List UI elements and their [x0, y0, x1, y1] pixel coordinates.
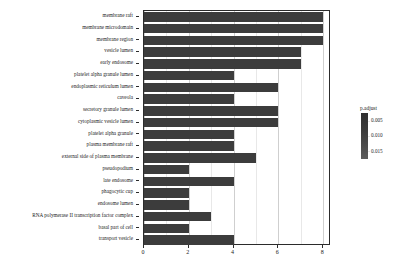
y-axis-tick: [136, 145, 139, 146]
y-axis-tick: [136, 180, 139, 181]
y-axis-tick: [136, 227, 139, 228]
bar-row: [144, 82, 331, 94]
bar-row: [144, 152, 331, 164]
y-axis-tick-label: secretory granule lumen: [83, 104, 133, 116]
go-enrichment-bar-chart: membrane raftmembrane microdomainmembran…: [0, 0, 404, 273]
x-axis: 02468: [143, 245, 330, 263]
bar: [144, 177, 234, 186]
bar: [144, 165, 189, 174]
legend-title: p.adjust: [360, 105, 377, 111]
bar: [144, 94, 234, 103]
y-axis-tick: [136, 39, 139, 40]
bar-row: [144, 140, 331, 152]
bar-row: [144, 164, 331, 176]
x-axis-tick-label: 6: [276, 249, 279, 255]
y-axis-tick: [136, 157, 139, 158]
bar: [144, 24, 323, 33]
bar: [144, 71, 234, 80]
y-axis-tick-label: platelet alpha granule: [88, 128, 133, 140]
bar-row: [144, 35, 331, 47]
legend-tick: [368, 136, 370, 137]
y-axis-tick: [136, 51, 139, 52]
bar: [144, 200, 189, 209]
legend-colorbar: [361, 113, 368, 159]
bar-row: [144, 70, 331, 82]
bar: [144, 59, 301, 68]
bar-row: [144, 58, 331, 70]
y-axis-tick: [136, 216, 139, 217]
y-axis-tick-label: phagocytic cup: [101, 186, 133, 198]
bar-row: [144, 117, 331, 129]
bar-row: [144, 46, 331, 58]
bar: [144, 12, 323, 21]
bar-row: [144, 187, 331, 199]
y-axis-tick-label: plasma membrane raft: [87, 139, 133, 151]
y-axis-tick-label: endosome lumen: [98, 198, 133, 210]
y-axis-tick-label: vesicle lumen: [104, 45, 133, 57]
legend-tick: [368, 121, 370, 122]
bar-row: [144, 23, 331, 35]
legend-p-adjust: p.adjust 0.0050.0100.015: [358, 105, 404, 167]
y-axis-tick-label: external side of plasma membrane: [62, 151, 133, 163]
y-axis-tick: [136, 16, 139, 17]
bar: [144, 153, 256, 162]
y-axis-tick: [136, 239, 139, 240]
bar: [144, 141, 234, 150]
y-axis-tick: [136, 110, 139, 111]
bar-row: [144, 129, 331, 141]
legend-tick-label: 0.010: [371, 133, 383, 138]
x-axis-tick: [143, 245, 144, 248]
y-axis-tick: [136, 169, 139, 170]
y-axis-tick-label: basal part of cell: [99, 222, 133, 234]
y-axis-tick: [136, 122, 139, 123]
y-axis-tick-label: membrane microdomain: [82, 22, 133, 34]
bar: [144, 118, 278, 127]
y-axis-tick-label: membrane raft: [103, 10, 133, 22]
y-axis-tick-label: pseudopodium: [102, 163, 133, 175]
y-axis-labels: membrane raftmembrane microdomainmembran…: [0, 10, 139, 245]
y-axis-tick: [136, 63, 139, 64]
bar: [144, 36, 323, 45]
bar: [144, 130, 234, 139]
bar: [144, 212, 211, 221]
legend-tick-label: 0.015: [371, 149, 383, 154]
bar-row: [144, 211, 331, 223]
x-axis-tick: [233, 245, 234, 248]
bar: [144, 83, 278, 92]
bar: [144, 188, 189, 197]
legend-tick-label: 0.005: [371, 118, 383, 123]
bar-row: [144, 105, 331, 117]
y-axis-tick: [136, 192, 139, 193]
bar-row: [144, 223, 331, 235]
y-axis-tick: [136, 98, 139, 99]
y-axis-tick: [136, 75, 139, 76]
bars-layer: [144, 11, 329, 244]
bar-row: [144, 93, 331, 105]
y-axis-tick-label: caveola: [117, 92, 133, 104]
y-axis-tick: [136, 204, 139, 205]
y-axis-tick: [136, 28, 139, 29]
x-axis-tick-label: 4: [231, 249, 234, 255]
y-axis-tick-label: cytoplasmic vesicle lumen: [78, 116, 133, 128]
bar: [144, 47, 301, 56]
bar: [144, 235, 234, 244]
y-axis-tick-label: platelet alpha granule lumen: [74, 69, 133, 81]
bar-row: [144, 11, 331, 23]
y-axis-tick-label: transport vesicle: [99, 233, 133, 245]
y-axis-tick: [136, 86, 139, 87]
y-axis-tick-label: membrane region: [97, 34, 133, 46]
y-axis-tick-label: early endosome: [100, 57, 133, 69]
y-axis-tick-label: RNA polymerase II transcription factor c…: [32, 210, 133, 222]
x-axis-tick: [277, 245, 278, 248]
plot-panel: [143, 10, 330, 245]
x-axis-tick-label: 2: [186, 249, 189, 255]
x-axis-tick: [188, 245, 189, 248]
bar-row: [144, 199, 331, 211]
legend-tick: [368, 151, 370, 152]
y-axis-tick-label: endoplasmic reticulum lumen: [71, 81, 133, 93]
bar: [144, 224, 189, 233]
x-axis-tick-label: 0: [142, 249, 145, 255]
y-axis-tick-label: late endosome: [103, 175, 133, 187]
x-axis-tick-label: 8: [321, 249, 324, 255]
bar-row: [144, 176, 331, 188]
